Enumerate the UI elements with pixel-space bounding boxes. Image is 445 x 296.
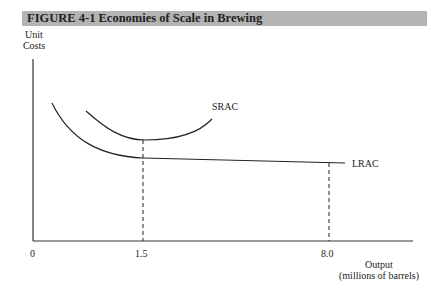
srac-curve xyxy=(86,111,212,140)
srac-label: SRAC xyxy=(212,101,238,112)
lrac-label: LRAC xyxy=(352,158,379,169)
x-tick-8-0: 8.0 xyxy=(321,248,334,259)
x-axis-label-line2: (millions of barrels) xyxy=(337,270,421,281)
x-axis-label: Output (millions of barrels) xyxy=(337,259,421,281)
chart-plot xyxy=(0,0,445,296)
x-axis-label-line1: Output xyxy=(337,259,421,270)
x-tick-0: 0 xyxy=(30,248,35,259)
lrac-curve xyxy=(52,103,345,163)
x-tick-1-5: 1.5 xyxy=(135,248,148,259)
